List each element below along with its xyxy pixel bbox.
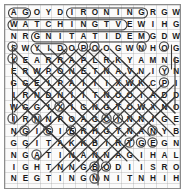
grid-cell[interactable]: G xyxy=(170,55,181,67)
grid-cell[interactable]: A xyxy=(8,7,20,19)
grid-cell[interactable]: N xyxy=(54,90,66,102)
grid-cell[interactable]: R xyxy=(112,138,124,150)
grid-cell[interactable]: D xyxy=(54,43,66,55)
grid-cell[interactable]: K xyxy=(66,138,78,150)
grid-cell[interactable]: P xyxy=(54,78,66,90)
grid-cell[interactable]: G xyxy=(89,114,101,126)
grid-cell[interactable]: G xyxy=(8,138,20,150)
grid-cell[interactable]: W xyxy=(8,102,20,114)
grid-cell[interactable]: H xyxy=(147,43,159,55)
grid-cell[interactable]: O xyxy=(54,66,66,78)
grid-cell[interactable]: R xyxy=(147,7,159,19)
grid-cell[interactable]: T xyxy=(112,126,124,138)
grid-cell[interactable]: K xyxy=(112,55,124,67)
grid-cell[interactable]: N xyxy=(8,150,20,162)
grid-cell[interactable]: N xyxy=(170,66,181,78)
grid-cell[interactable]: G xyxy=(31,31,43,43)
grid-cell[interactable]: G xyxy=(20,150,32,162)
grid-cell[interactable]: T xyxy=(43,150,55,162)
grid-cell[interactable]: I xyxy=(147,66,159,78)
grid-cell[interactable]: N xyxy=(66,162,78,174)
grid-cell[interactable]: I xyxy=(101,31,113,43)
grid-cell[interactable]: G xyxy=(112,43,124,55)
grid-cell[interactable]: B xyxy=(170,126,181,138)
grid-cell[interactable]: Y xyxy=(124,55,136,67)
grid-cell[interactable]: W xyxy=(124,43,136,55)
grid-cell[interactable]: I xyxy=(8,162,20,174)
grid-cell[interactable]: R xyxy=(20,31,32,43)
grid-cell[interactable]: G xyxy=(8,78,20,90)
grid-cell[interactable]: A xyxy=(66,55,78,67)
grid-cell[interactable]: W xyxy=(8,19,20,31)
grid-cell[interactable]: W xyxy=(170,31,181,43)
grid-cell[interactable]: E xyxy=(170,114,181,126)
grid-cell[interactable]: G xyxy=(31,173,43,185)
grid-cell[interactable]: A xyxy=(112,150,124,162)
grid-cell[interactable]: G xyxy=(136,138,148,150)
grid-cell[interactable]: W xyxy=(136,19,148,31)
grid-cell[interactable]: G xyxy=(136,7,148,19)
grid-cell[interactable]: A xyxy=(31,150,43,162)
grid-cell[interactable]: N xyxy=(89,102,101,114)
grid-cell[interactable]: A xyxy=(31,55,43,67)
grid-cell[interactable]: N xyxy=(89,150,101,162)
grid-cell[interactable]: E xyxy=(147,138,159,150)
grid-cell[interactable]: N xyxy=(54,162,66,174)
grid-cell[interactable]: A xyxy=(136,126,148,138)
grid-cell[interactable]: T xyxy=(89,90,101,102)
grid-cell[interactable]: C xyxy=(43,19,55,31)
grid-cell[interactable]: I xyxy=(159,173,171,185)
grid-cell[interactable]: T xyxy=(124,138,136,150)
grid-cell[interactable]: G xyxy=(20,102,32,114)
grid-cell[interactable]: N xyxy=(136,66,148,78)
grid-cell[interactable]: D xyxy=(54,7,66,19)
grid-cell[interactable]: O xyxy=(124,90,136,102)
grid-cell[interactable]: N xyxy=(101,90,113,102)
grid-cell[interactable]: K xyxy=(78,138,90,150)
grid-cell[interactable]: N xyxy=(124,126,136,138)
grid-cell[interactable]: P xyxy=(78,55,90,67)
grid-cell[interactable]: V xyxy=(124,66,136,78)
grid-cell[interactable]: O xyxy=(170,102,181,114)
grid-cell[interactable]: W xyxy=(136,102,148,114)
grid-cell[interactable]: N xyxy=(66,173,78,185)
grid-cell[interactable]: R xyxy=(159,162,171,174)
grid-cell[interactable]: N xyxy=(101,66,113,78)
grid-cell[interactable]: N xyxy=(43,31,55,43)
grid-cell[interactable]: D xyxy=(159,31,171,43)
grid-cell[interactable]: R xyxy=(101,55,113,67)
grid-cell[interactable]: O xyxy=(101,43,113,55)
grid-cell[interactable]: N xyxy=(8,173,20,185)
grid-cell[interactable]: K xyxy=(136,78,148,90)
grid-cell[interactable]: I xyxy=(31,126,43,138)
grid-cell[interactable]: N xyxy=(124,114,136,126)
grid-cell[interactable]: W xyxy=(170,7,181,19)
grid-cell[interactable]: N xyxy=(124,7,136,19)
grid-cell[interactable]: O xyxy=(159,43,171,55)
grid-cell[interactable]: I xyxy=(66,19,78,31)
grid-cell[interactable]: I xyxy=(43,102,55,114)
grid-cell[interactable]: I xyxy=(54,126,66,138)
grid-cell[interactable]: P xyxy=(78,43,90,55)
grid-cell[interactable]: N xyxy=(159,102,171,114)
grid-cell[interactable]: A xyxy=(112,66,124,78)
grid-cell[interactable]: G xyxy=(43,126,55,138)
grid-cell[interactable]: D xyxy=(170,90,181,102)
grid-cell[interactable]: N xyxy=(170,138,181,150)
grid-cell[interactable]: E xyxy=(8,66,20,78)
grid-cell[interactable]: O xyxy=(124,102,136,114)
grid-cell[interactable]: I xyxy=(78,90,90,102)
grid-cell[interactable]: R xyxy=(43,55,55,67)
grid-cell[interactable]: A xyxy=(78,31,90,43)
grid-cell[interactable]: N xyxy=(136,114,148,126)
grid-cell[interactable]: I xyxy=(136,90,148,102)
grid-cell[interactable]: S xyxy=(8,43,20,55)
grid-cell[interactable]: O xyxy=(66,43,78,55)
grid-cell[interactable]: H xyxy=(54,19,66,31)
grid-cell[interactable]: A xyxy=(136,55,148,67)
grid-cell[interactable]: P xyxy=(54,114,66,126)
grid-cell[interactable]: H xyxy=(159,19,171,31)
grid-cell[interactable]: L xyxy=(89,55,101,67)
grid-cell[interactable]: I xyxy=(31,138,43,150)
grid-cell[interactable]: G xyxy=(159,7,171,19)
